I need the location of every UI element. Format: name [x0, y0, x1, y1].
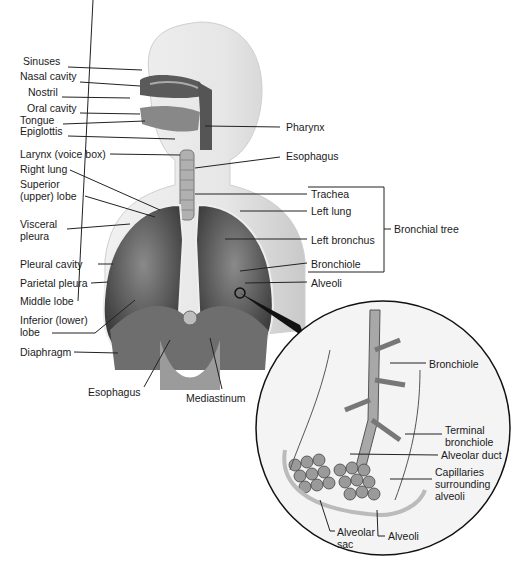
label-larynx: Larynx (voice box)	[20, 148, 106, 160]
label-pleural-cavity: Pleural cavity	[20, 258, 82, 270]
label-inset-alveoli: Alveoli	[388, 530, 419, 542]
label-parietal-pleura: Parietal pleura	[20, 277, 88, 289]
label-visceral-pleura: Visceral pleura	[20, 218, 80, 242]
label-terminal-bronchiole: Terminal bronchiole	[445, 424, 515, 448]
label-right-lung: Right lung	[20, 163, 67, 175]
label-esophagus-bottom: Esophagus	[88, 386, 141, 398]
label-sinuses: Sinuses	[23, 55, 60, 67]
label-inferior-lobe: Inferior (lower) lobe	[20, 314, 110, 338]
label-middle-lobe: Middle lobe	[20, 295, 74, 307]
label-alveoli: Alveoli	[311, 277, 342, 289]
label-esophagus-top: Esophagus	[286, 150, 339, 162]
label-alveolar-duct: Alveolar duct	[441, 449, 502, 461]
label-pharynx: Pharynx	[286, 121, 325, 133]
label-mediastinum: Mediastinum	[186, 392, 246, 404]
label-left-bronchus: Left bronchus	[311, 234, 375, 246]
label-left-lung: Left lung	[311, 205, 351, 217]
label-capillaries: Capillaries surrounding alveoli	[435, 466, 515, 502]
label-nasal-cavity: Nasal cavity	[20, 70, 77, 82]
label-superior-lobe: Superior (upper) lobe	[20, 178, 100, 202]
label-nostril: Nostril	[28, 86, 58, 98]
label-bronchiole: Bronchiole	[311, 258, 361, 270]
label-alveolar-sac: Alveolar sac	[337, 526, 387, 550]
label-diaphragm: Diaphragm	[20, 346, 71, 358]
label-oral-cavity: Oral cavity	[27, 102, 77, 114]
label-inset-bronchiole: Bronchiole	[429, 358, 479, 370]
label-bronchial-tree: Bronchial tree	[394, 223, 459, 235]
label-epiglottis: Epiglottis	[20, 125, 63, 137]
label-trachea: Trachea	[311, 188, 349, 200]
